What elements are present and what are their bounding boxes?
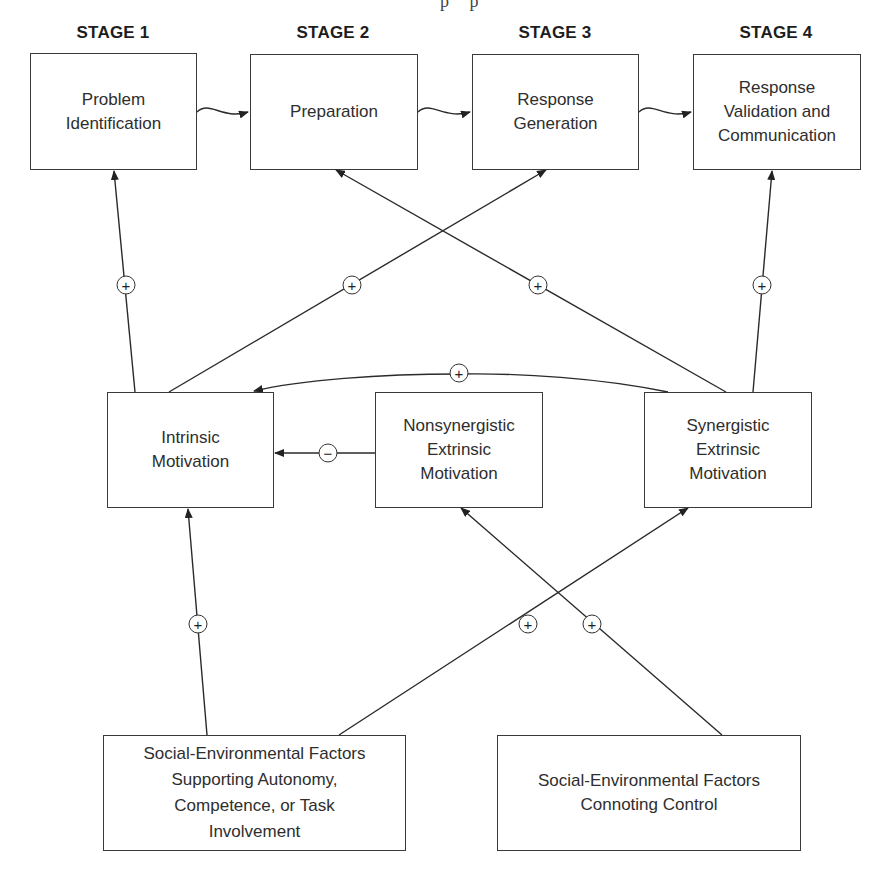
minus-sign-icon: − bbox=[319, 444, 338, 463]
plus-sign-icon: + bbox=[189, 615, 208, 634]
stage-4-label: STAGE 4 bbox=[691, 23, 861, 43]
plus-sign-icon: + bbox=[117, 276, 136, 295]
arrow-supporting-synergistic bbox=[339, 508, 688, 735]
plus-sign-icon: + bbox=[450, 364, 469, 383]
response-generation-box: Response Generation bbox=[472, 54, 639, 170]
synergistic-extrinsic-motivation-box: Synergistic Extrinsic Motivation bbox=[644, 392, 812, 508]
supporting-factors-box: Social-Environmental Factors Supporting … bbox=[103, 735, 406, 851]
stage-3-label: STAGE 3 bbox=[470, 23, 640, 43]
problem-identification-box: Problem Identification bbox=[30, 53, 197, 170]
controlling-factors-box: Social-Environmental Factors Connoting C… bbox=[497, 735, 801, 851]
response-validation-box: Response Validation and Communication bbox=[693, 54, 861, 170]
plus-sign-icon: + bbox=[519, 615, 538, 634]
intrinsic-motivation-box: Intrinsic Motivation bbox=[107, 392, 274, 508]
componential-model-diagram: p p bbox=[0, 0, 881, 877]
plus-sign-icon: + bbox=[583, 615, 602, 634]
plus-sign-icon: + bbox=[343, 276, 362, 295]
flow-arrow-1-2 bbox=[197, 108, 248, 114]
stage-1-label: STAGE 1 bbox=[28, 23, 198, 43]
stage-2-label: STAGE 2 bbox=[248, 23, 418, 43]
flow-arrow-3-4 bbox=[639, 108, 691, 114]
nonsynergistic-extrinsic-motivation-box: Nonsynergistic Extrinsic Motivation bbox=[375, 392, 543, 508]
preparation-box: Preparation bbox=[250, 54, 418, 170]
plus-sign-icon: + bbox=[753, 276, 772, 295]
plus-sign-icon: + bbox=[529, 276, 548, 295]
flow-arrow-2-3 bbox=[418, 108, 470, 114]
